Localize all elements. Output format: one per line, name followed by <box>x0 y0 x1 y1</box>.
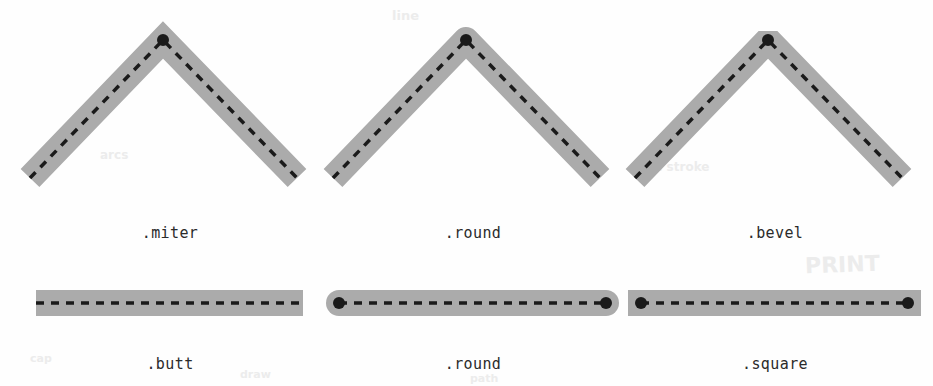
path-guide-dashed <box>635 40 902 178</box>
caption-round: .round <box>445 224 502 242</box>
figure-page: PRINTlinearcsthe strokedrawpathcap .mite… <box>0 0 933 386</box>
caption-butt: .butt <box>146 355 193 373</box>
stroke-band <box>635 40 902 178</box>
vertex-dot <box>460 34 472 46</box>
stroke-band <box>333 40 600 178</box>
path-guide-dashed <box>333 40 600 178</box>
caption-round: .round <box>445 355 502 373</box>
endpoint-dot <box>333 297 345 309</box>
path-guide-dashed <box>30 40 297 178</box>
caption-bevel: .bevel <box>747 224 804 242</box>
line-style-figure <box>0 0 933 386</box>
endpoint-dot <box>600 297 612 309</box>
join-sample-miter <box>30 34 297 178</box>
endpoint-dot <box>902 297 914 309</box>
stroke-band <box>30 40 297 178</box>
caption-square: .square <box>742 355 808 373</box>
vertex-dot <box>157 34 169 46</box>
join-sample-bevel <box>635 34 902 178</box>
caption-miter: .miter <box>142 224 199 242</box>
line-cap-row <box>36 297 914 309</box>
cap-sample-round <box>333 297 612 309</box>
vertex-dot <box>762 34 774 46</box>
cap-sample-square <box>635 297 914 309</box>
join-sample-round <box>333 34 600 178</box>
line-join-row <box>30 34 902 178</box>
endpoint-dot <box>635 297 647 309</box>
